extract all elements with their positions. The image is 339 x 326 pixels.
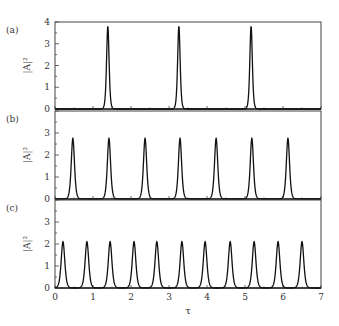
panel-frame-1: [55, 111, 321, 199]
panel-label: (b): [6, 114, 19, 124]
signal-line-1: [55, 139, 321, 200]
y-tick-label: 2: [44, 239, 50, 249]
y-tick-label: 0: [44, 283, 50, 293]
chart: 01234(a)|A|²0123(b)|A|²0123(c)|A|²012345…: [0, 0, 339, 326]
y-tick-label: 3: [44, 39, 50, 49]
signal-line-2: [55, 242, 321, 288]
x-tick-label: 6: [280, 292, 286, 302]
y-axis-label: |A|²: [22, 236, 33, 253]
panel-frame-0: [55, 22, 321, 109]
panel-label: (a): [6, 25, 18, 35]
y-tick-label: 3: [44, 128, 50, 138]
x-tick-label: 7: [318, 292, 324, 302]
x-tick-label: 2: [128, 292, 134, 302]
x-tick-label: 4: [204, 292, 210, 302]
y-tick-label: 1: [44, 261, 50, 271]
y-tick-label: 2: [44, 150, 50, 160]
y-tick-label: 4: [44, 17, 50, 27]
x-tick-label: 3: [166, 292, 172, 302]
panel-label: (c): [6, 203, 18, 213]
y-tick-label: 0: [44, 194, 50, 204]
signal-line-0: [55, 26, 321, 109]
y-tick-label: 3: [44, 217, 50, 227]
x-tick-label: 0: [52, 292, 58, 302]
y-tick-label: 0: [44, 104, 50, 114]
y-tick-label: 1: [44, 172, 50, 182]
y-tick-label: 2: [44, 61, 50, 71]
x-axis-label: τ: [185, 305, 191, 316]
y-axis-label: |A|²: [22, 147, 33, 164]
x-tick-label: 5: [242, 292, 248, 302]
y-tick-label: 1: [44, 82, 50, 92]
x-tick-label: 1: [90, 292, 96, 302]
y-axis-label: |A|²: [22, 57, 33, 74]
